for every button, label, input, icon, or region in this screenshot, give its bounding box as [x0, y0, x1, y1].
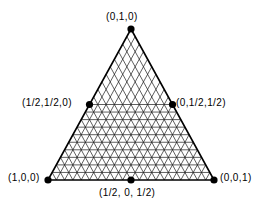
dot-bottom-right-vertex: [210, 176, 217, 183]
dot-top-vertex: [127, 25, 134, 32]
triangular-grid: [52, 37, 210, 180]
label-left-midpoint: (1/2,1/2,0): [22, 98, 72, 108]
dot-bottom-midpoint: [127, 176, 134, 183]
dot-left-midpoint: [86, 101, 93, 108]
label-right-midpoint: (0,1/2,1/2): [176, 98, 226, 108]
label-bottom-left-vertex: (1,0,0): [8, 173, 40, 183]
label-bottom-midpoint: (1/2, 0, 1/2): [99, 188, 155, 198]
label-bottom-right-vertex: (0,0,1): [220, 173, 252, 183]
dot-bottom-left-vertex: [44, 176, 51, 183]
label-top-vertex: (0,1,0): [106, 12, 138, 22]
simplex-figure: (0,1,0) (1/2,1/2,0) (0,1/2,1/2) (1,0,0) …: [0, 0, 264, 209]
